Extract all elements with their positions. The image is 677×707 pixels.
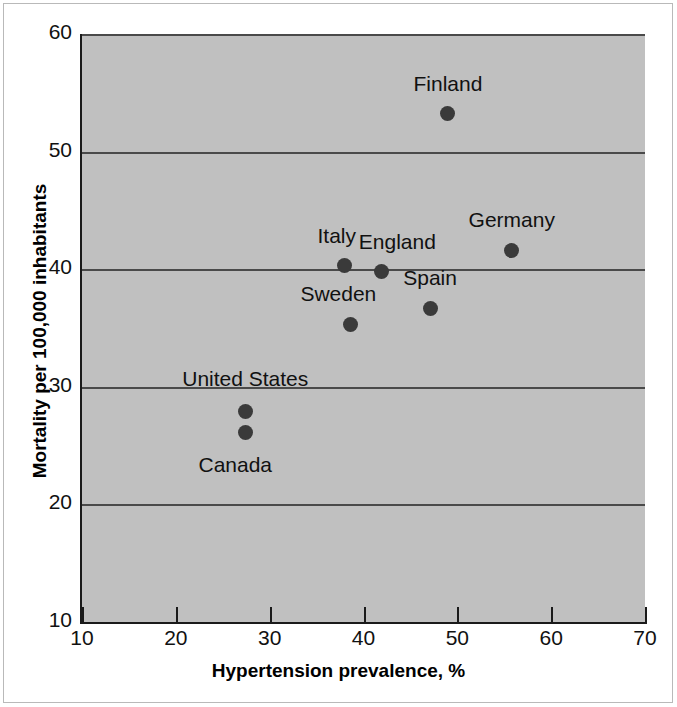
x-axis-line bbox=[80, 622, 647, 624]
x-tick-label-20: 20 bbox=[146, 626, 206, 650]
gridline-y-50 bbox=[82, 152, 645, 154]
data-point-england bbox=[374, 264, 389, 279]
plot-area: FinlandGermanyItalyEnglandSpainSwedenUni… bbox=[82, 34, 645, 622]
x-tick-label-50: 50 bbox=[427, 626, 487, 650]
x-tick-40 bbox=[364, 607, 366, 622]
data-point-sweden bbox=[343, 317, 358, 332]
data-point-united-states bbox=[238, 404, 253, 419]
scatter-chart-figure: FinlandGermanyItalyEnglandSpainSwedenUni… bbox=[0, 0, 677, 707]
x-tick-60 bbox=[551, 607, 553, 622]
gridline-y-20 bbox=[82, 504, 645, 506]
data-point-germany bbox=[504, 243, 519, 258]
y-axis-line bbox=[80, 34, 82, 624]
point-label-spain: Spain bbox=[403, 266, 457, 290]
y-axis-title-wrapper: Mortality per 100,000 inhabitants bbox=[29, 31, 51, 631]
x-tick-20 bbox=[176, 607, 178, 622]
point-label-canada: Canada bbox=[198, 453, 272, 477]
point-label-germany: Germany bbox=[469, 208, 555, 232]
x-tick-30 bbox=[270, 607, 272, 622]
point-label-italy: Italy bbox=[317, 224, 356, 248]
x-tick-70 bbox=[645, 607, 647, 622]
x-tick-label-60: 60 bbox=[521, 626, 581, 650]
x-axis-title: Hypertension prevalence, % bbox=[0, 660, 677, 682]
gridline-y-40 bbox=[82, 269, 645, 271]
y-axis-title: Mortality per 100,000 inhabitants bbox=[29, 184, 50, 479]
x-tick-10 bbox=[82, 607, 84, 622]
data-point-finland bbox=[440, 106, 455, 121]
x-tick-label-40: 40 bbox=[334, 626, 394, 650]
point-label-united-states: United States bbox=[182, 367, 308, 391]
data-point-spain bbox=[423, 301, 438, 316]
x-tick-label-70: 70 bbox=[615, 626, 675, 650]
x-tick-50 bbox=[457, 607, 459, 622]
point-label-sweden: Sweden bbox=[300, 282, 376, 306]
data-point-canada bbox=[238, 425, 253, 440]
gridline-y-60 bbox=[82, 34, 645, 36]
point-label-finland: Finland bbox=[413, 72, 482, 96]
x-tick-label-30: 30 bbox=[240, 626, 300, 650]
point-label-england: England bbox=[359, 230, 436, 254]
gridline-y-30 bbox=[82, 387, 645, 389]
